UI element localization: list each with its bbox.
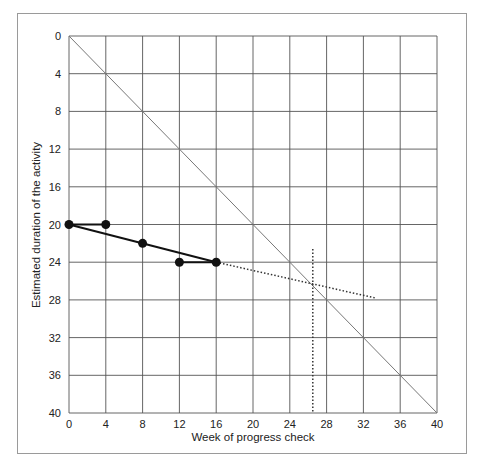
x-axis-label: Week of progress check	[191, 431, 314, 443]
tick-labels: 04812162024283236400481216202428323640	[49, 30, 443, 430]
data-point	[212, 258, 221, 267]
x-tick-label: 0	[66, 418, 72, 430]
x-tick-label: 32	[357, 418, 369, 430]
x-tick-label: 40	[431, 418, 443, 430]
data-point	[175, 258, 184, 267]
series-line	[216, 262, 375, 298]
y-tick-label: 36	[49, 369, 61, 381]
x-tick-label: 16	[210, 418, 222, 430]
y-tick-label: 24	[49, 256, 61, 268]
x-tick-label: 24	[284, 418, 296, 430]
y-axis-label: Estimated duration of the activity	[30, 142, 42, 308]
y-tick-label: 20	[49, 219, 61, 231]
x-tick-label: 36	[394, 418, 406, 430]
y-tick-label: 12	[49, 143, 61, 155]
y-tick-label: 16	[49, 181, 61, 193]
y-tick-label: 32	[49, 332, 61, 344]
x-tick-label: 12	[173, 418, 185, 430]
x-tick-label: 20	[247, 418, 259, 430]
data-point	[65, 220, 74, 229]
y-tick-label: 0	[55, 30, 61, 42]
y-tick-label: 4	[55, 68, 61, 80]
y-tick-label: 8	[55, 105, 61, 117]
data-point	[101, 220, 110, 229]
data-point	[138, 239, 147, 248]
y-tick-label: 28	[49, 294, 61, 306]
x-tick-label: 4	[103, 418, 109, 430]
x-tick-label: 8	[140, 418, 146, 430]
chart: 04812162024283236400481216202428323640 W…	[0, 0, 480, 470]
y-tick-label: 40	[49, 407, 61, 419]
x-tick-label: 28	[320, 418, 332, 430]
